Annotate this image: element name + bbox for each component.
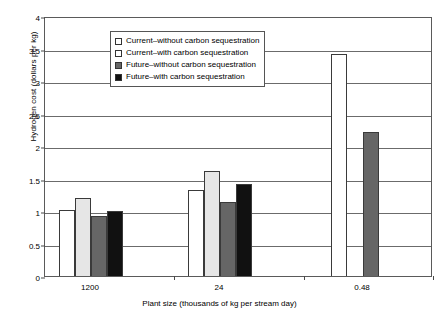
bar-0-48-series1 [331,54,347,276]
bar-group-0-48 [331,18,395,276]
bar-1200-series4 [107,211,123,276]
legend-item: Current–with carbon sequestration [115,47,259,59]
y-tick-mark [41,278,45,279]
legend-label-future-without: Future–without carbon sequestration [126,61,256,69]
bar-24-series1 [188,190,204,276]
x-tick-mark [433,276,434,280]
legend-item: Current–without carbon sequestration [115,35,259,47]
bar-1200-series3 [91,216,107,276]
x-axis-title: Plant size (thousands of kg per stream d… [0,299,439,308]
legend-swatch-current-with [115,50,122,57]
bar-24-series3 [220,202,236,276]
legend-swatch-future-with [115,74,122,81]
bar-1200-series1 [59,210,75,276]
legend-swatch-future-without [115,62,122,69]
x-tick-mark [174,276,175,280]
y-tick-label: 0 [36,274,40,283]
x-tick-label-24: 24 [215,283,224,292]
y-tick-label: 1 [36,209,40,218]
bar-1200-series2 [75,198,91,276]
y-tick-label: 1.5 [29,176,40,185]
legend-item: Future–without carbon sequestration [115,59,259,71]
x-tick-mark [304,276,305,280]
bar-24-series2 [204,171,220,276]
legend-swatch-current-without [115,38,122,45]
y-axis-title: Hydrogen cost (dollars per kg) [29,0,38,182]
bar-0-48-series3 [363,132,379,276]
bar-chart: Hydrogen cost (dollars per kg) 00.511.52… [0,0,439,317]
y-tick-label: 2.5 [29,111,40,120]
legend-label-current-with: Current–with carbon sequestration [126,49,248,57]
x-tick-label-0-48: 0.48 [354,283,370,292]
y-tick-label: 2 [36,144,40,153]
x-tick-label-1200: 1200 [81,283,99,292]
y-tick-label: 0.5 [29,241,40,250]
legend-label-current-without: Current–without carbon sequestration [126,37,259,45]
y-tick-label: 3 [36,79,40,88]
y-tick-label: 4 [36,14,40,23]
chart-legend: Current–without carbon sequestration Cur… [110,31,265,87]
bar-24-series4 [236,184,252,276]
legend-label-future-with: Future–with carbon sequestration [126,73,245,81]
legend-item: Future–with carbon sequestration [115,71,259,83]
y-tick-label: 3.5 [29,46,40,55]
